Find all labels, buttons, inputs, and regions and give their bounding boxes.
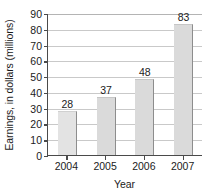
bar-value-label: 28 <box>62 98 74 110</box>
y-axis-tick-label: 50 <box>30 71 42 83</box>
bar-2004 <box>58 111 77 155</box>
y-axis-tick-label: 70 <box>30 40 42 52</box>
bar-2007 <box>174 24 193 155</box>
y-axis-tick-label: 40 <box>30 87 42 99</box>
x-axis-title: Year <box>47 178 202 190</box>
y-axis-tick-label: 30 <box>30 103 42 115</box>
bar-2006 <box>135 79 154 155</box>
y-axis-title-text: Earnings, in dollars (millions) <box>3 19 15 150</box>
x-axis-tick-label: 2006 <box>132 160 155 172</box>
x-axis-tick-label: 2004 <box>55 160 78 172</box>
bar-2005 <box>97 97 116 155</box>
x-axis-tick-label: 2007 <box>171 160 194 172</box>
bar-chart: Earnings, in dollars (millions) 01020304… <box>0 0 208 196</box>
x-axis-tick-labels: 2004200520062007 <box>47 160 202 176</box>
y-axis-tick-label: 20 <box>30 118 42 130</box>
plot-area: 28374883 <box>47 14 202 156</box>
y-axis-title: Earnings, in dollars (millions) <box>0 0 18 170</box>
y-axis-tick-label: 10 <box>30 134 42 146</box>
x-axis-tick-label: 2005 <box>93 160 116 172</box>
y-axis-tick-label: 80 <box>30 24 42 36</box>
bar-value-label: 48 <box>139 66 151 78</box>
y-axis-tick-label: 0 <box>36 150 42 162</box>
y-axis-tick-label: 90 <box>30 8 42 20</box>
bar-value-label: 37 <box>100 84 112 96</box>
bar-value-label: 83 <box>178 11 190 23</box>
y-axis-tick-label: 60 <box>30 55 42 67</box>
y-axis-tick-labels: 0102030405060708090 <box>18 14 44 156</box>
y-axis-tick <box>44 156 48 157</box>
bars-layer: 28374883 <box>48 14 202 155</box>
